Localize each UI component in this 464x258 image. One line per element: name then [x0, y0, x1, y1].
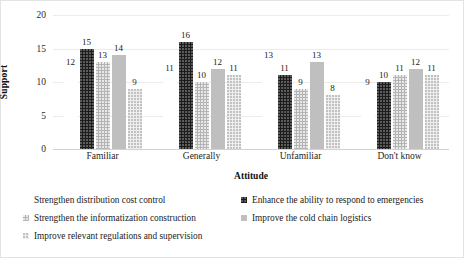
- legend-swatch-icon: [23, 233, 29, 239]
- bar[interactable]: [377, 82, 391, 149]
- legend-label: Enhance the ability to respond to emerge…: [252, 195, 423, 205]
- bar-group-bars: 1116101211: [152, 15, 251, 149]
- y-tick-label-15: 15: [37, 44, 47, 54]
- bar-group-bars: 13119138: [251, 15, 350, 149]
- x-axis-title: Attitude: [53, 171, 449, 181]
- bar[interactable]: [361, 89, 375, 149]
- legend-item[interactable]: Improve the cold chain logistics: [241, 213, 447, 223]
- bar[interactable]: [163, 75, 177, 149]
- bar-slot: 10: [195, 15, 209, 149]
- bar-slot: 12: [211, 15, 225, 149]
- x-tick-label: Generally: [152, 151, 251, 161]
- bar-value-label: 14: [114, 44, 123, 53]
- bar-value-label: 13: [98, 51, 107, 60]
- bar-slot: 14: [112, 15, 126, 149]
- bar-value-label: 9: [365, 78, 370, 87]
- legend-label: Improve the cold chain logistics: [252, 213, 371, 223]
- bar-value-label: 13: [312, 51, 321, 60]
- legend-item[interactable]: Strengthen distribution cost control: [23, 195, 241, 205]
- bar-value-label: 9: [132, 78, 137, 87]
- legend-swatch-icon: [23, 215, 29, 221]
- bar-slot: 11: [425, 15, 439, 149]
- bar[interactable]: [310, 62, 324, 149]
- bar[interactable]: [326, 95, 340, 149]
- y-tick-label-5: 5: [41, 111, 46, 121]
- y-tick-label-0: 0: [41, 144, 46, 154]
- x-tick-label: Familiar: [53, 151, 152, 161]
- bar-slot: 9: [294, 15, 308, 149]
- bar-slot: 8: [326, 15, 340, 149]
- bar-group: 121513149: [53, 15, 152, 149]
- bar-group: 1116101211: [152, 15, 251, 149]
- bar[interactable]: [179, 42, 193, 149]
- legend-label: Improve relevant regulations and supervi…: [34, 231, 202, 241]
- bar-value-label: 11: [165, 64, 174, 73]
- y-tick-label-20: 20: [37, 10, 47, 20]
- bar-value-label: 10: [197, 71, 206, 80]
- bar-slot: 10: [377, 15, 391, 149]
- bar[interactable]: [112, 55, 126, 149]
- legend-item[interactable]: Strengthen the informatization construct…: [23, 213, 241, 223]
- bar-value-label: 12: [66, 58, 75, 67]
- bar[interactable]: [211, 69, 225, 149]
- bar-value-label: 12: [411, 58, 420, 67]
- bar[interactable]: [96, 62, 110, 149]
- bar-slot: 11: [393, 15, 407, 149]
- bar-slot: 15: [80, 15, 94, 149]
- y-axis-title: Support: [0, 65, 9, 100]
- bar-slot: 12: [64, 15, 78, 149]
- bar-slot: 13: [96, 15, 110, 149]
- legend-swatch-icon: [23, 197, 29, 203]
- bar[interactable]: [227, 75, 241, 149]
- bar-value-label: 8: [330, 84, 335, 93]
- gridline-0: 0: [53, 149, 449, 150]
- bar-value-label: 12: [213, 58, 222, 67]
- bar[interactable]: [64, 69, 78, 149]
- bar-value-label: 16: [181, 31, 190, 40]
- x-tick-label: Unfamiliar: [251, 151, 350, 161]
- legend-swatch-icon: [241, 215, 247, 221]
- bar-slot: 11: [278, 15, 292, 149]
- bar-slot: 11: [163, 15, 177, 149]
- bar-slot: 12: [409, 15, 423, 149]
- plot-area: 20151050 1215131491116101211131191389101…: [53, 15, 449, 149]
- x-tick-label: Don't know: [350, 151, 449, 161]
- bar-group: 910111211: [350, 15, 449, 149]
- legend-label: Strengthen the informatization construct…: [34, 213, 196, 223]
- bar-slot: 16: [179, 15, 193, 149]
- bar-value-label: 11: [395, 64, 404, 73]
- chart-figure: Support 20151050 12151314911161012111311…: [0, 0, 464, 258]
- bar[interactable]: [128, 89, 142, 149]
- legend-label: Strengthen distribution cost control: [34, 195, 165, 205]
- bar-value-label: 9: [298, 78, 303, 87]
- bar-value-label: 15: [82, 38, 91, 47]
- bar-group-bars: 910111211: [350, 15, 449, 149]
- bar-slot: 9: [361, 15, 375, 149]
- bar-group-bars: 121513149: [53, 15, 152, 149]
- bar[interactable]: [262, 62, 276, 149]
- chart-legend: Strengthen distribution cost controlEnha…: [23, 191, 447, 245]
- bar-slot: 13: [262, 15, 276, 149]
- bar[interactable]: [195, 82, 209, 149]
- bar[interactable]: [409, 69, 423, 149]
- bar-groups: 121513149111610121113119138910111211: [53, 15, 449, 149]
- bar[interactable]: [294, 89, 308, 149]
- bar-value-label: 11: [427, 64, 436, 73]
- legend-swatch-icon: [241, 197, 247, 203]
- bar[interactable]: [80, 49, 94, 150]
- bar-value-label: 11: [229, 64, 238, 73]
- bar-value-label: 10: [379, 71, 388, 80]
- bar[interactable]: [425, 75, 439, 149]
- bar-slot: 13: [310, 15, 324, 149]
- bar-value-label: 13: [264, 51, 273, 60]
- bar[interactable]: [393, 75, 407, 149]
- y-tick-label-10: 10: [37, 77, 47, 87]
- bar[interactable]: [278, 75, 292, 149]
- bar-slot: 9: [128, 15, 142, 149]
- bar-group: 13119138: [251, 15, 350, 149]
- x-axis-tick-labels: FamiliarGenerallyUnfamiliarDon't know: [53, 151, 449, 161]
- legend-item[interactable]: Enhance the ability to respond to emerge…: [241, 195, 447, 205]
- legend-item[interactable]: Improve relevant regulations and supervi…: [23, 231, 241, 241]
- bar-value-label: 11: [280, 64, 289, 73]
- bar-slot: 11: [227, 15, 241, 149]
